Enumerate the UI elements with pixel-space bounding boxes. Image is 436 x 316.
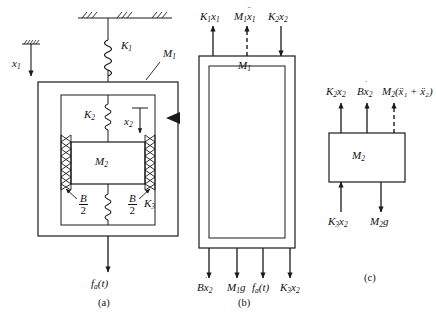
force-label-k3x2-b: K3x2 <box>280 282 300 294</box>
ceiling-support <box>78 12 172 18</box>
panel-letter-a: (a) <box>98 297 110 308</box>
label-x1: x1 <box>12 58 21 70</box>
label-m1-body: M1 <box>163 48 176 60</box>
spring-k2 <box>105 95 111 142</box>
figure-canvas: x1 K1 M1 K2 x2 M2 B2 B2 K3 fa(t) (a) M1 … <box>0 0 436 316</box>
force-label-bx2dot-b: B˙x2 <box>197 282 212 294</box>
label-k1: K1 <box>121 40 132 52</box>
label-applied-force: fa(t) <box>91 278 108 290</box>
label-m2-mass: M2 <box>95 156 108 168</box>
x1-reference <box>22 40 40 76</box>
force-label-k2x2-b: K2x2 <box>268 11 288 23</box>
label-x2: x2 <box>124 116 133 128</box>
panel-letter-c: (c) <box>364 272 376 283</box>
force-label-k2x2-c: K2x2 <box>326 86 346 98</box>
panel-c-graphics <box>329 103 405 212</box>
spring-k1 <box>105 18 112 82</box>
damper-left-leader <box>66 189 77 199</box>
force-label-m1g: M1g <box>227 282 245 294</box>
pointer-triangle <box>166 112 180 124</box>
label-damper-right: B2 <box>128 193 137 216</box>
label-m1-b: M1 <box>238 60 251 72</box>
figure-vector-layer <box>0 0 436 316</box>
force-label-m1x1ddot: M1¨x1 <box>234 11 256 23</box>
spring-k3 <box>105 184 111 225</box>
damper-right <box>145 135 155 190</box>
force-label-bx2dot-c: B˙x2 <box>357 86 372 98</box>
force-label-k1x1: K1x1 <box>200 11 220 23</box>
damper-left <box>61 135 71 190</box>
x2-reference <box>132 108 148 133</box>
force-label-k3x2-c: K3x2 <box>328 216 348 228</box>
label-damper-left: B2 <box>79 193 88 216</box>
force-label-m2x1x2ddot: M2(ẍ₁ + ẍ₂) <box>382 86 433 98</box>
label-k2: K2 <box>84 109 95 121</box>
panel-letter-b: (b) <box>238 297 250 308</box>
force-label-m2g: M2g <box>370 216 388 228</box>
label-k3: K3 <box>144 198 155 210</box>
panel-a-graphics <box>22 12 180 272</box>
label-m2-c: M2 <box>352 150 365 162</box>
force-label-fat-b: fa(t) <box>252 282 269 294</box>
